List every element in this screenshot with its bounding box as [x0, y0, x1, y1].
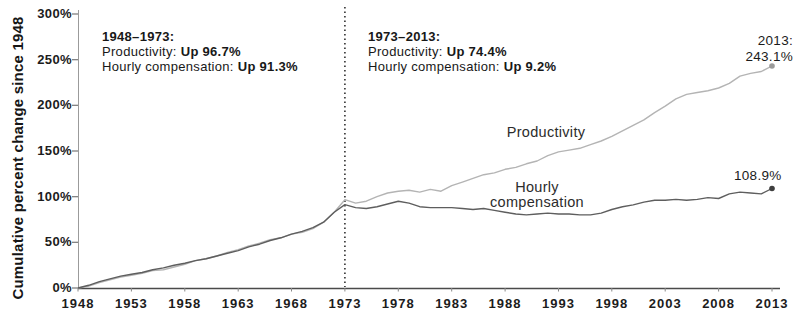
- x-tick-label: 1948: [54, 296, 102, 311]
- x-tick-label: 1978: [374, 296, 422, 311]
- hourly-compensation-line: [78, 189, 772, 289]
- x-tick-label: 1993: [534, 296, 582, 311]
- productivity-line: [78, 66, 772, 288]
- y-tick-label: 0%: [12, 280, 72, 295]
- x-tick-label: 1983: [428, 296, 476, 311]
- annotation-title: 1948–1973:: [102, 29, 298, 44]
- y-tick-label: 250%: [12, 52, 72, 67]
- hourly-compensation-line-end-dot: [769, 186, 775, 192]
- y-tick-label: 100%: [12, 189, 72, 204]
- x-tick-label: 2013: [748, 296, 796, 311]
- x-tick-label: 1963: [214, 296, 262, 311]
- x-tick-label: 1998: [588, 296, 636, 311]
- y-tick-label: 300%: [12, 6, 72, 21]
- x-tick-label: 1968: [268, 296, 316, 311]
- x-tick-label: 1953: [107, 296, 155, 311]
- hourly-compensation-series-label: Hourly compensation: [471, 180, 603, 210]
- y-tick-label: 150%: [12, 143, 72, 158]
- x-tick-label: 1973: [321, 296, 369, 311]
- annotation-line: Hourly compensation:Up 9.2%: [368, 59, 556, 74]
- productivity-pay-chart: Cumulative percent change since 1948 194…: [0, 0, 803, 316]
- annotation-line: Hourly compensation:Up 91.3%: [102, 59, 298, 74]
- annotation-1973-2013: 1973–2013: Productivity:Up 74.4% Hourly …: [368, 29, 556, 74]
- x-tick-label: 2008: [695, 296, 743, 311]
- y-tick-label: 200%: [12, 97, 72, 112]
- x-tick-label: 2003: [641, 296, 689, 311]
- productivity-series-label: Productivity: [507, 124, 586, 140]
- annotation-title: 1973–2013:: [368, 29, 556, 44]
- y-tick-label: 50%: [12, 234, 72, 249]
- annotation-line: Productivity:Up 74.4%: [368, 44, 556, 59]
- x-tick-label: 1988: [481, 296, 529, 311]
- annotation-1948-1973: 1948–1973: Productivity:Up 96.7% Hourly …: [102, 29, 298, 74]
- productivity-end-label: 2013: 243.1%: [693, 33, 793, 65]
- compensation-end-label: 108.9%: [734, 168, 782, 184]
- annotation-line: Productivity:Up 96.7%: [102, 44, 298, 59]
- x-tick-label: 1958: [161, 296, 209, 311]
